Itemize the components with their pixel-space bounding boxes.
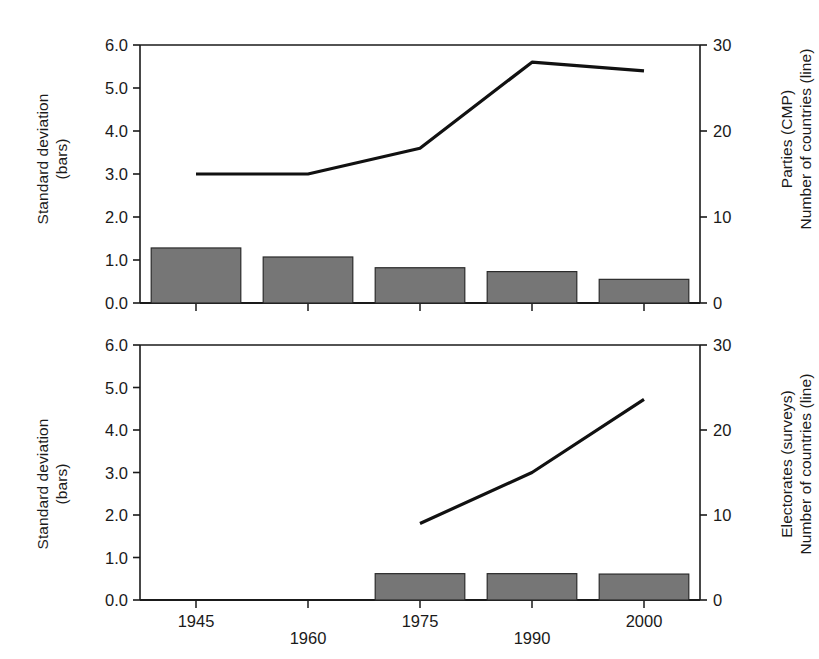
y-tick-label-right: 30: [713, 336, 731, 354]
y-tick-label-right: 10: [713, 506, 731, 524]
bar: [151, 248, 241, 303]
y-tick-label-left: 4.0: [105, 122, 128, 140]
axis-frame: [140, 345, 700, 600]
x-tick-label: 1945: [178, 612, 215, 630]
y-tick-label-right: 0: [713, 294, 722, 312]
plot-area-bottom: 0.01.02.03.04.05.06.00102030194519601975…: [0, 330, 819, 659]
y-tick-label-left: 6.0: [105, 36, 128, 54]
y-tick-label-right: 20: [713, 421, 731, 439]
bar: [375, 268, 465, 303]
y-tick-label-left: 6.0: [105, 336, 128, 354]
bar: [487, 272, 577, 303]
bar: [599, 279, 689, 303]
y-tick-label-left: 1.0: [105, 549, 128, 567]
y-tick-label-left: 5.0: [105, 79, 128, 97]
y-tick-label-left: 3.0: [105, 464, 128, 482]
y-tick-label-left: 5.0: [105, 379, 128, 397]
line-series: [196, 62, 644, 174]
y-axis-title-right-bottom: Electorates (surveys) Number of countrie…: [777, 354, 815, 574]
line-series: [420, 399, 644, 523]
y-axis-title-left-bottom: Standard deviation (bars): [33, 384, 71, 584]
y-tick-label-left: 2.0: [105, 208, 128, 226]
plot-area-top: 0.01.02.03.04.05.06.00102030: [0, 0, 819, 330]
y-tick-label-right: 10: [713, 208, 731, 226]
y-tick-label-right: 20: [713, 122, 731, 140]
y-tick-label-left: 0.0: [105, 294, 128, 312]
bar: [487, 574, 577, 600]
x-tick-label: 2000: [626, 612, 663, 630]
y-tick-label-left: 4.0: [105, 421, 128, 439]
y-tick-label-left: 3.0: [105, 165, 128, 183]
y-tick-label-left: 1.0: [105, 251, 128, 269]
y-tick-label-left: 0.0: [105, 591, 128, 609]
bar: [599, 574, 689, 600]
chart-panel-bottom: 0.01.02.03.04.05.06.00102030194519601975…: [0, 330, 819, 659]
y-tick-label-left: 2.0: [105, 506, 128, 524]
bar: [375, 574, 465, 600]
x-tick-label: 1960: [290, 629, 327, 647]
x-tick-label: 1990: [514, 629, 551, 647]
y-axis-title-right-top: Parties (CMP) Number of countries (line): [777, 29, 815, 249]
y-axis-title-left-top: Standard deviation (bars): [33, 59, 71, 259]
y-tick-label-right: 30: [713, 36, 731, 54]
chart-panel-top: 0.01.02.03.04.05.06.00102030 Standard de…: [0, 0, 819, 330]
y-tick-label-right: 0: [713, 591, 722, 609]
bar: [263, 257, 353, 303]
x-tick-label: 1975: [402, 612, 439, 630]
figure-two-panel-chart: 0.01.02.03.04.05.06.00102030 Standard de…: [0, 0, 819, 659]
